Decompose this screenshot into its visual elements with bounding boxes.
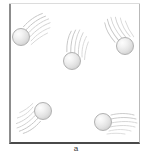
container-top-edge [9,3,140,4]
particle-sphere [94,113,112,131]
particle-sphere [34,102,52,120]
particle-sphere [116,37,134,55]
particle-sphere [12,28,30,46]
particle-motion-figure: a [0,0,153,153]
particle-sphere [63,52,81,70]
